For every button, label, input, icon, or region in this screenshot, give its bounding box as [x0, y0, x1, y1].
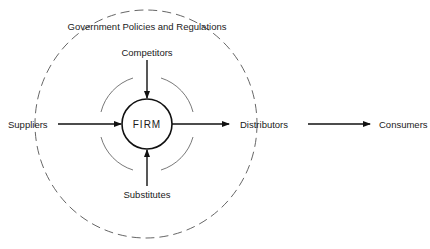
suppliers-label: Suppliers [8, 119, 48, 130]
diagram-canvas: FIRM Government Policies and Regulations… [0, 0, 430, 249]
distributors-label: Distributors [240, 119, 288, 130]
consumers-label: Consumers [379, 119, 428, 130]
government-label: Government Policies and Regulations [68, 21, 227, 32]
competitors-label: Competitors [121, 47, 172, 58]
firm-label: FIRM [133, 119, 161, 130]
substitutes-label: Substitutes [124, 189, 171, 200]
